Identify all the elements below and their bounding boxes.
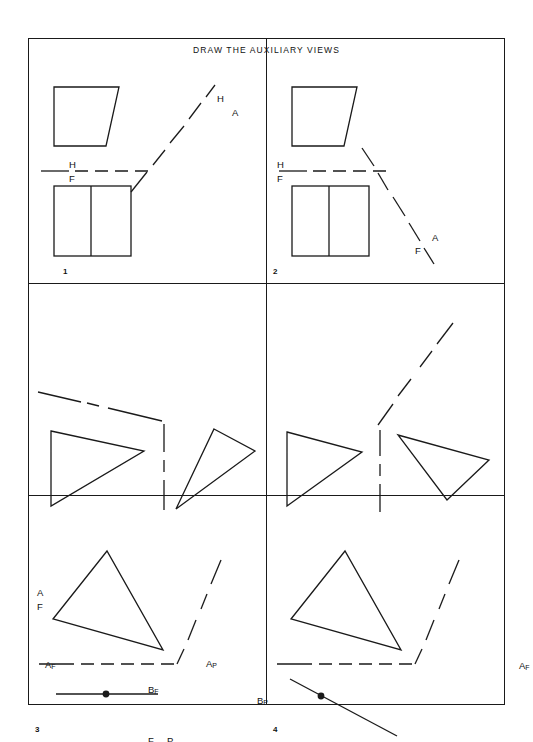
panel-number-2: 2: [273, 267, 277, 276]
front-view-rectangle: [54, 186, 131, 256]
fold-line-fa-seg2: [378, 173, 388, 190]
panel-number-3: 3: [35, 725, 39, 734]
fold-line-ha-seg4: [449, 560, 459, 584]
frontal-triangle: [287, 432, 362, 506]
fold-line-fa-seg3: [393, 197, 405, 216]
top-view-trapezoid: [292, 87, 357, 146]
fold-line-ha-seg4: [211, 560, 221, 584]
fold-line-ha-seg2: [426, 620, 434, 640]
point-bf-dot: [318, 693, 325, 700]
horizontal-triangle: [291, 551, 401, 650]
worksheet-sheet: DRAW THE AUXILIARY VIEWS: [0, 0, 533, 742]
fold-line-ha-seg1: [131, 172, 147, 192]
fold-line-ap-seg4: [437, 323, 453, 344]
horizontal-triangle: [53, 551, 163, 650]
panel-number-1: 1: [63, 267, 67, 276]
panel-3-drawing: [29, 284, 266, 495]
point-bf-dot: [103, 691, 110, 698]
fold-line-ha-seg1: [177, 649, 184, 664]
panel-5-drawing: [29, 496, 266, 706]
fold-line-ha-seg1: [415, 649, 422, 664]
front-view-edge-line: [290, 679, 397, 736]
fold-line-fa-seg1: [362, 148, 374, 166]
fold-line-af-solid: [38, 392, 81, 402]
fold-line-fa-seg4: [409, 223, 420, 241]
fold-line-ha-seg2: [188, 620, 196, 640]
fold-line-ha-seg4: [189, 103, 201, 119]
fold-line-ha-seg3: [439, 594, 445, 609]
fold-label-f2-panel3: F: [148, 735, 154, 742]
fold-label-f-panel1: F: [69, 173, 75, 184]
fold-line-ha-seg3: [201, 594, 207, 609]
fold-label-f-panel2: F: [277, 173, 283, 184]
panel-1-drawing: [29, 39, 266, 283]
vertex-label-af-panel4: AF: [519, 660, 530, 671]
fold-line-ha-seg5: [206, 85, 215, 97]
fold-line-af-solid2: [108, 408, 162, 421]
drawing-frame: DRAW THE AUXILIARY VIEWS: [28, 38, 505, 705]
fold-line-ha-seg3: [170, 126, 184, 143]
panel-2-drawing: [267, 39, 506, 283]
profile-triangle: [398, 435, 489, 500]
fold-line-af-dash1: [87, 403, 99, 406]
fold-line-ap-seg1: [378, 404, 393, 425]
front-view-rectangle: [292, 186, 369, 256]
fold-line-ap-seg3: [420, 351, 432, 367]
fold-line-ap-seg2: [398, 379, 411, 396]
fold-label-h-panel2: H: [277, 159, 284, 170]
panel-number-4: 4: [273, 725, 277, 734]
top-view-trapezoid: [54, 87, 119, 146]
fold-label-f-aux-panel2: F: [415, 245, 421, 256]
panel-4-drawing: [267, 284, 506, 495]
fold-label-h-panel1: H: [69, 159, 76, 170]
frontal-triangle: [51, 431, 144, 506]
panel-6-drawing: [267, 496, 506, 706]
fold-label-a-aux-panel2: A: [432, 232, 438, 243]
fold-label-p-panel3: P: [167, 735, 173, 742]
fold-line-fa-seg5: [424, 248, 434, 264]
fold-label-h-aux-panel1: H: [217, 93, 224, 104]
fold-label-a-aux-panel1: A: [232, 107, 238, 118]
fold-line-ha-seg2: [153, 150, 165, 165]
